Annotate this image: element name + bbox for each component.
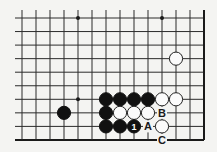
- black-stone: [99, 93, 112, 106]
- black-stone: [141, 93, 154, 106]
- black-stone: [127, 93, 140, 106]
- point-label-c: C: [158, 134, 166, 146]
- star-point: [160, 16, 164, 20]
- white-stone: [127, 106, 140, 119]
- black-stone: [113, 120, 126, 133]
- point-label-b: B: [158, 107, 166, 119]
- point-label-a: A: [144, 120, 152, 132]
- white-stone: [169, 52, 182, 65]
- white-stone: [113, 106, 126, 119]
- black-stone: [99, 120, 112, 133]
- white-stone: [155, 93, 168, 106]
- white-stone: [169, 93, 182, 106]
- white-stone: [155, 120, 168, 133]
- move-number: 1: [131, 122, 136, 132]
- black-stone: [57, 106, 70, 119]
- star-point: [76, 16, 80, 20]
- black-stone: [99, 106, 112, 119]
- go-board-diagram: 1 ABC: [0, 0, 217, 152]
- star-point: [76, 97, 80, 101]
- black-stone: [113, 93, 126, 106]
- white-stone: [141, 106, 154, 119]
